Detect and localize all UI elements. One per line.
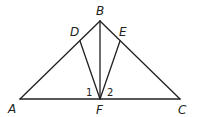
label-b: B: [96, 4, 104, 18]
label-e: E: [119, 25, 127, 39]
angle-1-label: 1: [86, 87, 92, 98]
angle-2-label: 2: [107, 87, 113, 98]
geometry-diagram: B D E A F C 1 2: [0, 0, 199, 117]
label-d: D: [70, 25, 79, 39]
label-a: A: [7, 102, 16, 116]
label-f: F: [96, 103, 104, 117]
label-c: C: [178, 103, 187, 117]
